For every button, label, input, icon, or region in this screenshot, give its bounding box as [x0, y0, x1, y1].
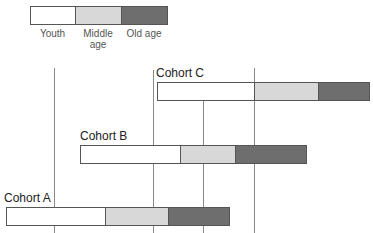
- cohort-a-label: Cohort A: [4, 191, 51, 205]
- legend-label-middle-line2: age: [75, 39, 121, 50]
- cohort-c-middle-age: [255, 83, 319, 100]
- cohort-b-old-age: [236, 146, 306, 163]
- legend-swatch-old-age: [122, 7, 167, 24]
- cohort-a-old-age: [169, 208, 229, 225]
- cohort-b-youth: [81, 146, 181, 163]
- cohort-c-bar: [157, 82, 370, 101]
- legend-label-old-age: Old age: [121, 28, 167, 39]
- legend-bar: [30, 6, 168, 25]
- cohort-a-bar: [6, 207, 230, 226]
- cohort-c-youth: [158, 83, 255, 100]
- cohort-b-bar: [80, 145, 307, 164]
- cohort-a-middle-age: [106, 208, 169, 225]
- legend-label-middle-line1: Middle: [75, 28, 121, 39]
- legend-label-middle-age: Middle age: [75, 28, 121, 50]
- cohort-c-label: Cohort C: [156, 66, 204, 80]
- cohort-b-middle-age: [181, 146, 236, 163]
- legend-swatch-youth: [31, 7, 76, 24]
- cohort-a-youth: [7, 208, 106, 225]
- legend-swatch-middle-age: [76, 7, 122, 24]
- legend-label-youth: Youth: [30, 28, 75, 39]
- cohort-b-label: Cohort B: [80, 129, 127, 143]
- cohort-c-old-age: [319, 83, 369, 100]
